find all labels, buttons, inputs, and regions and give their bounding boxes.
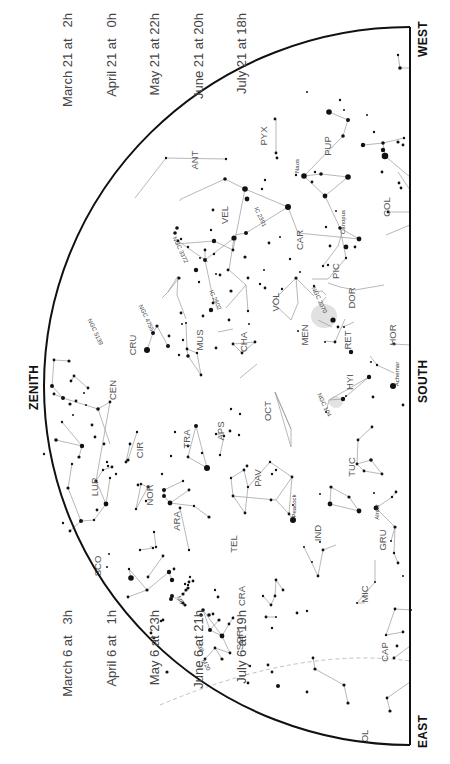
constellation-label-aps: APS — [215, 421, 226, 440]
star — [369, 458, 373, 462]
star — [247, 310, 249, 312]
constellation-label-pav: PAV — [252, 469, 263, 487]
star — [162, 494, 166, 498]
star — [50, 384, 54, 388]
constellation-label-cru: CRU — [127, 335, 138, 356]
east-label: EAST — [416, 715, 430, 748]
constellation-line — [148, 556, 163, 577]
constellation-line — [329, 112, 348, 136]
constellation-label-tel: TEL — [228, 535, 239, 552]
star — [391, 496, 393, 498]
south-label: SOUTH — [416, 360, 430, 404]
constellation-line — [387, 698, 390, 711]
star — [192, 580, 195, 583]
star — [53, 393, 56, 396]
star — [243, 469, 246, 472]
star — [80, 444, 84, 448]
star — [242, 186, 248, 192]
star — [53, 359, 56, 362]
star — [91, 424, 94, 427]
constellation-line — [71, 376, 88, 388]
star — [324, 341, 326, 343]
constellation-label-ara: ARA — [171, 511, 182, 531]
star — [66, 486, 69, 489]
star — [213, 253, 215, 255]
star — [181, 323, 183, 325]
star — [70, 380, 73, 383]
constellation-label-pic: PIC — [330, 263, 341, 279]
constellation-line — [229, 238, 248, 311]
star — [187, 456, 190, 459]
star — [173, 231, 177, 235]
constellation-label-vol: VOL — [270, 292, 281, 311]
constellation-line — [164, 481, 189, 503]
star — [390, 540, 392, 542]
star — [68, 402, 71, 405]
star — [396, 645, 399, 648]
star-name-canopus: Canopus — [340, 210, 346, 234]
star — [247, 277, 250, 280]
constellation-line — [129, 569, 169, 590]
constellation-line — [180, 179, 225, 201]
star — [137, 484, 140, 487]
constellation-line — [106, 478, 110, 504]
star — [381, 141, 385, 145]
star — [108, 553, 110, 555]
star — [371, 426, 374, 429]
constellation-line — [226, 285, 246, 308]
star — [262, 595, 264, 597]
star — [361, 143, 365, 147]
constellation-line — [291, 278, 298, 320]
star — [107, 465, 109, 467]
star — [345, 174, 351, 180]
star — [161, 473, 163, 475]
star — [128, 575, 134, 581]
star-name-alnair: Alnair — [374, 504, 380, 519]
star — [397, 54, 399, 56]
star — [343, 326, 345, 328]
star — [174, 431, 176, 433]
star — [274, 595, 277, 598]
star — [276, 157, 279, 160]
star — [183, 603, 186, 606]
constellation-label-pyx: PYX — [258, 126, 269, 146]
star — [402, 144, 405, 147]
star — [71, 463, 73, 465]
star — [271, 473, 273, 475]
constellation-label-ret: RET — [342, 330, 353, 349]
star — [62, 522, 64, 524]
star — [337, 326, 340, 329]
constellation-line — [323, 545, 336, 550]
star — [73, 375, 76, 378]
constellation-line — [186, 323, 187, 349]
star — [145, 588, 148, 591]
star — [231, 235, 236, 240]
star — [162, 488, 166, 492]
constellation-line — [170, 503, 194, 506]
constellation-line — [383, 143, 410, 177]
star — [397, 562, 400, 565]
star — [103, 443, 106, 446]
constellation-line — [357, 460, 371, 471]
star — [170, 455, 172, 457]
star — [265, 616, 268, 619]
star — [180, 312, 183, 315]
star — [303, 546, 305, 548]
time-row: July 21 at 18h — [235, 13, 250, 118]
constellation-line — [357, 440, 358, 464]
deep-sky-label: NGC 4755 — [138, 304, 156, 333]
star — [188, 549, 190, 551]
star — [61, 396, 65, 400]
star — [239, 413, 241, 415]
star — [168, 501, 173, 506]
constellation-line — [323, 233, 342, 266]
constellation-label-cir: CIR — [134, 442, 145, 459]
star — [347, 495, 350, 498]
star — [102, 469, 104, 471]
star — [188, 489, 191, 492]
constellation-line — [358, 427, 372, 440]
star — [394, 608, 397, 611]
constellation-label-ant: ANT — [189, 150, 200, 169]
star — [282, 589, 285, 592]
star — [187, 246, 189, 248]
